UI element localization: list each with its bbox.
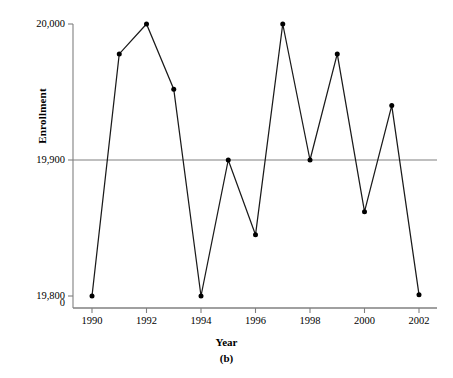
x-tick-label: 2002	[395, 316, 443, 327]
y-tick-label: 19,900	[8, 155, 65, 166]
y-tick-label: 20,000	[8, 19, 65, 30]
axes-group	[68, 24, 437, 313]
x-tick-label: 2000	[341, 316, 389, 327]
y-axis-zero-label: 0	[8, 298, 65, 309]
figure-container: Enrollment 19,80019,90020,000 1990199219…	[0, 0, 453, 378]
x-tick-label: 1996	[232, 316, 280, 327]
x-tick-label: 1998	[286, 316, 334, 327]
x-tick-label: 1994	[177, 316, 225, 327]
x-tick-label: 1992	[123, 316, 171, 327]
x-tick-label: 1990	[68, 316, 116, 327]
panel-caption: (b)	[0, 352, 453, 364]
x-axis-title: Year	[0, 336, 453, 348]
